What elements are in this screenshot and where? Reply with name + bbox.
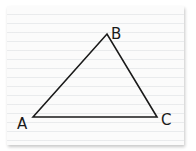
vertex-label-c: C bbox=[161, 111, 171, 129]
vertex-label-b: B bbox=[111, 25, 121, 43]
triangle-abc bbox=[33, 34, 157, 117]
vertex-label-a: A bbox=[17, 115, 28, 133]
triangle-diagram: A B C bbox=[0, 0, 196, 151]
